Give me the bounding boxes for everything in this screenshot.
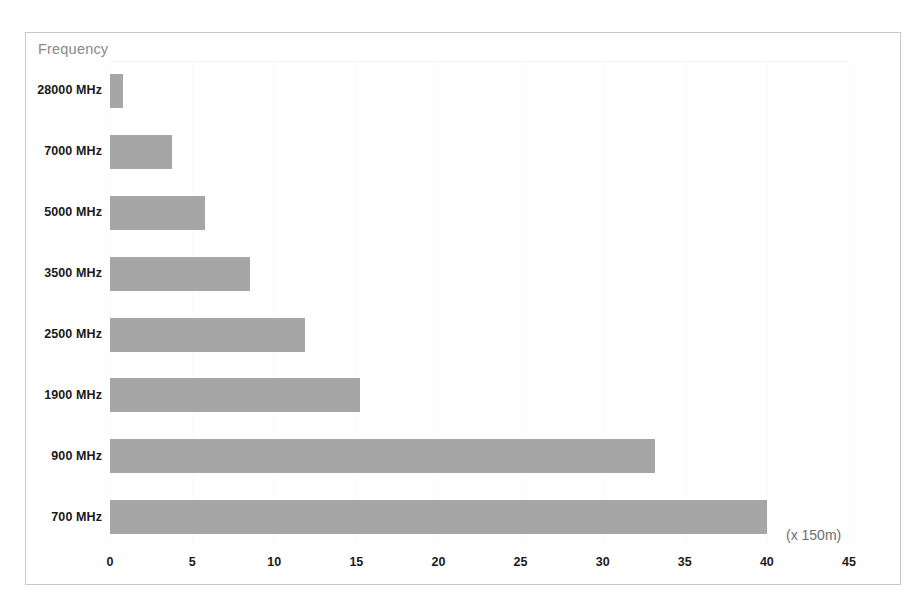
x-tick-label: 5 [189, 555, 196, 569]
category-label: 1900 MHz [44, 388, 102, 402]
gridline [192, 61, 193, 548]
category-label: 3500 MHz [44, 266, 102, 280]
bar[interactable] [110, 500, 767, 534]
category-label: 900 MHz [51, 449, 102, 463]
x-axis-title: (x 150m) [786, 527, 841, 543]
chart-frame: Frequency 28000 MHz7000 MHz5000 MHz3500 … [25, 32, 901, 585]
category-label: 5000 MHz [44, 205, 102, 219]
x-axis-tick-labels: 051015202530354045 [110, 555, 849, 579]
bar[interactable] [110, 439, 655, 473]
gridline [356, 61, 357, 548]
category-label: 700 MHz [51, 510, 102, 524]
bar[interactable] [110, 378, 360, 412]
gridline [849, 61, 850, 548]
x-tick-label: 10 [267, 555, 281, 569]
category-label: 2500 MHz [44, 327, 102, 341]
x-tick-label: 45 [842, 555, 856, 569]
bar[interactable] [110, 257, 250, 291]
category-label: 28000 MHz [37, 83, 102, 97]
bar[interactable] [110, 135, 172, 169]
gridline [685, 61, 686, 548]
gridline [767, 61, 768, 548]
category-axis-labels: 28000 MHz7000 MHz5000 MHz3500 MHz2500 MH… [26, 61, 110, 548]
x-tick-label: 25 [514, 555, 528, 569]
x-tick-label: 0 [107, 555, 114, 569]
x-tick-label: 20 [431, 555, 445, 569]
gridline [438, 61, 439, 548]
x-tick-label: 35 [678, 555, 692, 569]
legend-series-label: Frequency [38, 41, 108, 57]
bar[interactable] [110, 74, 123, 108]
plot-area [110, 61, 849, 548]
gridline [521, 61, 522, 548]
bar[interactable] [110, 196, 205, 230]
x-tick-label: 15 [349, 555, 363, 569]
gridline [603, 61, 604, 548]
x-tick-label: 40 [760, 555, 774, 569]
bar[interactable] [110, 318, 305, 352]
x-tick-label: 30 [596, 555, 610, 569]
category-label: 7000 MHz [44, 144, 102, 158]
gridline [274, 61, 275, 548]
